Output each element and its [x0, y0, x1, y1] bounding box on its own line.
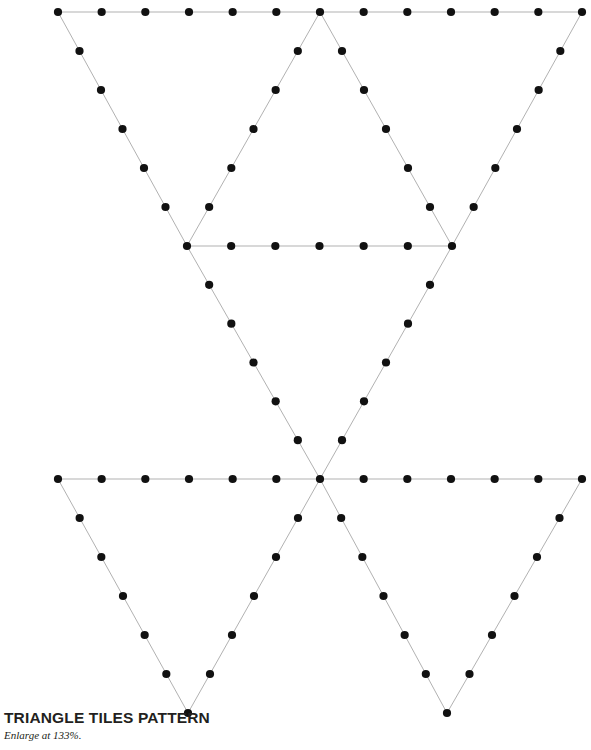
- pattern-dot: [382, 358, 390, 366]
- pattern-dot: [401, 631, 409, 639]
- pattern-sheet: TRIANGLE TILES PATTERN Enlarge at 133%.: [0, 0, 591, 750]
- pattern-dot: [360, 86, 368, 94]
- pattern-dot: [229, 8, 237, 16]
- triangle-tiles-diagram: [0, 0, 591, 750]
- pattern-dot: [183, 242, 191, 250]
- pattern-dot: [555, 514, 563, 522]
- edge-layer: [58, 12, 582, 713]
- pattern-dot: [140, 164, 148, 172]
- pattern-dot: [272, 475, 280, 483]
- pattern-dot: [534, 475, 542, 483]
- pattern-dot: [360, 8, 368, 16]
- pattern-dot: [141, 631, 149, 639]
- pattern-dot: [227, 320, 235, 328]
- pattern-dot: [358, 553, 366, 561]
- pattern-dot: [578, 475, 586, 483]
- pattern-dot: [447, 475, 455, 483]
- pattern-dot: [294, 47, 302, 55]
- pattern-dot: [360, 475, 368, 483]
- pattern-dot: [249, 358, 257, 366]
- pattern-dot: [491, 475, 499, 483]
- pattern-dot: [118, 125, 126, 133]
- pattern-dot: [141, 475, 149, 483]
- pattern-dot: [404, 164, 412, 172]
- pattern-title: TRIANGLE TILES PATTERN: [4, 709, 404, 727]
- pattern-dot: [382, 125, 390, 133]
- pattern-dot: [162, 670, 170, 678]
- pattern-dot: [448, 242, 456, 250]
- pattern-dot: [338, 436, 346, 444]
- pattern-dot: [379, 592, 387, 600]
- pattern-dot: [185, 475, 193, 483]
- pattern-dot: [54, 8, 62, 16]
- pattern-dot: [98, 8, 106, 16]
- pattern-dot: [272, 8, 280, 16]
- pattern-dot: [513, 125, 521, 133]
- pattern-dot: [161, 203, 169, 211]
- pattern-dot: [360, 397, 368, 405]
- pattern-dot: [403, 475, 411, 483]
- pattern-dot: [315, 242, 323, 250]
- pattern-dot: [272, 553, 280, 561]
- caption-block: TRIANGLE TILES PATTERN Enlarge at 133%.: [4, 709, 404, 742]
- pattern-dot: [119, 592, 127, 600]
- pattern-dot: [426, 203, 434, 211]
- pattern-dot: [316, 475, 324, 483]
- pattern-dot: [443, 709, 451, 717]
- pattern-dot: [249, 125, 257, 133]
- pattern-dot: [205, 281, 213, 289]
- pattern-dot: [98, 475, 106, 483]
- pattern-dot: [250, 592, 258, 600]
- pattern-dot: [426, 281, 434, 289]
- pattern-dot: [578, 8, 586, 16]
- pattern-dot: [470, 203, 478, 211]
- pattern-dot: [205, 203, 213, 211]
- pattern-dot: [227, 164, 235, 172]
- pattern-dot: [491, 164, 499, 172]
- pattern-dot: [404, 242, 412, 250]
- pattern-dot: [294, 514, 302, 522]
- pattern-dot: [403, 8, 411, 16]
- pattern-dot: [272, 86, 280, 94]
- pattern-dot: [556, 47, 564, 55]
- pattern-dot: [294, 436, 302, 444]
- pattern-subtitle: Enlarge at 133%.: [4, 729, 404, 742]
- pattern-dot: [206, 670, 214, 678]
- pattern-dot: [534, 8, 542, 16]
- pattern-dot: [510, 592, 518, 600]
- pattern-dot: [465, 670, 473, 678]
- pattern-dot: [488, 631, 496, 639]
- pattern-dot: [75, 47, 83, 55]
- pattern-dot: [185, 8, 193, 16]
- pattern-dot: [491, 8, 499, 16]
- pattern-dot: [360, 242, 368, 250]
- pattern-dot: [229, 475, 237, 483]
- pattern-dot: [97, 553, 105, 561]
- pattern-dot: [422, 670, 430, 678]
- pattern-dot: [97, 86, 105, 94]
- pattern-dot: [316, 8, 324, 16]
- pattern-dot: [228, 631, 236, 639]
- pattern-dot: [535, 86, 543, 94]
- pattern-dot: [337, 514, 345, 522]
- pattern-dot: [338, 47, 346, 55]
- pattern-dot: [141, 8, 149, 16]
- pattern-dot: [272, 397, 280, 405]
- pattern-dot: [227, 242, 235, 250]
- pattern-dot: [76, 514, 84, 522]
- pattern-dot: [54, 475, 62, 483]
- pattern-dot: [447, 8, 455, 16]
- pattern-dot: [533, 553, 541, 561]
- pattern-dot: [271, 242, 279, 250]
- pattern-dot: [404, 320, 412, 328]
